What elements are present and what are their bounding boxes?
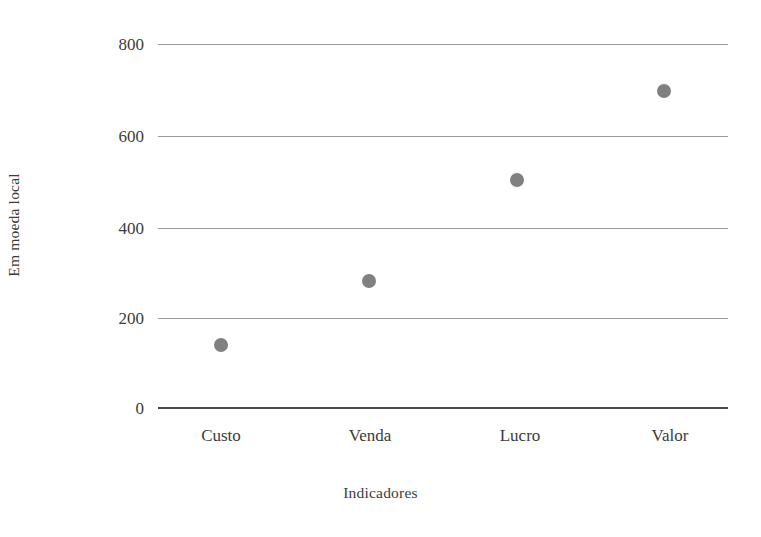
gridline-800	[158, 44, 728, 45]
gridline-baseline-0	[158, 407, 728, 409]
y-tick-label-800: 800	[74, 36, 144, 53]
data-point-custo[interactable]	[214, 338, 228, 352]
data-point-venda[interactable]	[362, 274, 376, 288]
data-point-valor[interactable]	[657, 84, 671, 98]
x-tick-label-valor: Valor	[600, 425, 740, 447]
x-axis-title: Indicadores	[0, 482, 761, 504]
x-axis-tick-labels: Custo Venda Lucro Valor	[158, 425, 728, 451]
y-tick-label-400: 400	[74, 220, 144, 237]
gridline-600	[158, 136, 728, 137]
y-axis-tick-labels: 800 600 400 200 0	[68, 0, 144, 537]
y-tick-label-600: 600	[74, 128, 144, 145]
data-point-lucro[interactable]	[510, 173, 524, 187]
plot-area	[158, 44, 728, 408]
gridline-200	[158, 318, 728, 319]
y-axis-title: Em moeda local	[0, 145, 28, 305]
x-tick-label-venda: Venda	[300, 425, 440, 447]
y-tick-label-200: 200	[74, 310, 144, 327]
x-tick-label-custo: Custo	[151, 425, 291, 447]
y-tick-label-0: 0	[74, 400, 144, 417]
x-tick-label-lucro: Lucro	[450, 425, 590, 447]
scatter-chart: Em moeda local 800 600 400 200 0 Custo V…	[0, 0, 761, 537]
gridline-400	[158, 228, 728, 229]
